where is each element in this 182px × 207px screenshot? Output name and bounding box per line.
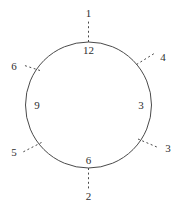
outer-label-top: 1 xyxy=(86,8,92,19)
inner-label-3: 3 xyxy=(138,100,144,111)
diagram-canvas xyxy=(0,0,182,207)
tick-upper-right xyxy=(137,53,156,65)
outer-label-upper-left: 6 xyxy=(11,61,17,72)
outer-label-lower-right: 3 xyxy=(165,143,171,154)
circle-outline-group xyxy=(26,42,152,168)
clock-circle-outline xyxy=(26,42,152,168)
inner-label-6: 6 xyxy=(86,155,92,166)
outer-label-upper-right: 4 xyxy=(160,52,166,63)
outer-label-bottom: 2 xyxy=(86,191,92,202)
inner-label-12: 12 xyxy=(83,45,94,56)
inner-label-9: 9 xyxy=(34,100,40,111)
outer-label-lower-left: 5 xyxy=(11,147,17,158)
clock-diagram-figure: 12 3 6 9 1 4 3 2 5 6 xyxy=(0,0,182,207)
